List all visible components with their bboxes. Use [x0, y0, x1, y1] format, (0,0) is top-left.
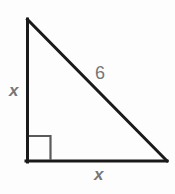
right-angle-marker-icon [29, 136, 51, 160]
geometry-figure: x 6 x [0, 0, 175, 194]
label-vertical-leg: x [9, 82, 18, 99]
hypotenuse-line [28, 20, 168, 162]
triangle-drawing [0, 0, 175, 194]
label-horizontal-leg: x [94, 166, 103, 183]
triangle-outline [26, 19, 167, 162]
label-hypotenuse: 6 [95, 64, 105, 82]
